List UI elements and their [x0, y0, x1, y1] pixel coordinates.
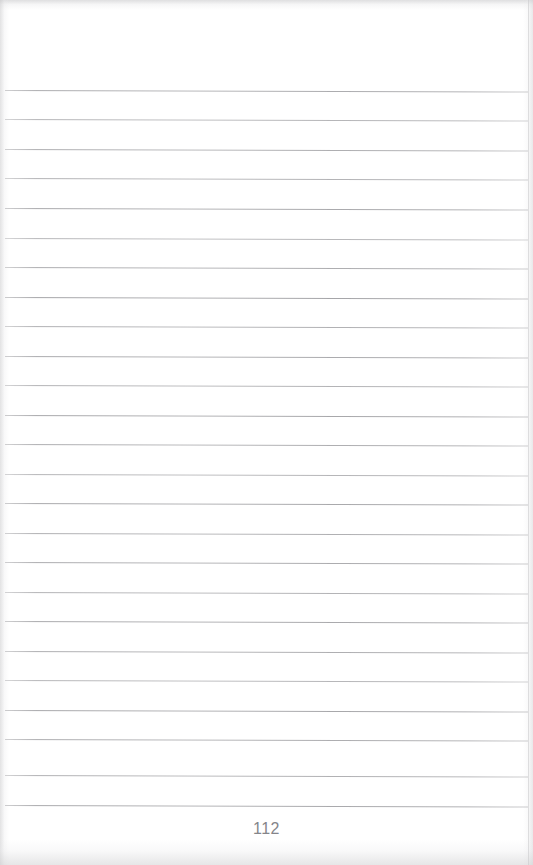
page-number: 112 [0, 820, 533, 838]
scanned-page: 112 [0, 0, 533, 865]
writing-area [0, 88, 533, 808]
top-margin [0, 0, 533, 88]
